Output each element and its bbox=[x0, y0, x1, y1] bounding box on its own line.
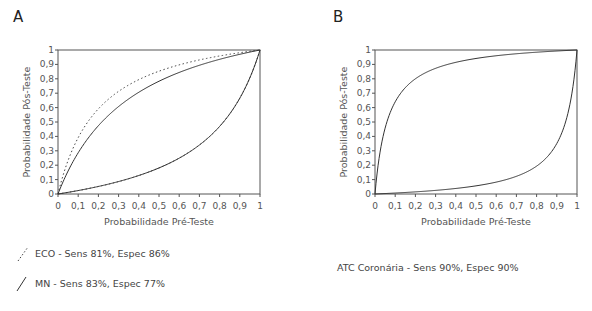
x-tick-label: 0,6 bbox=[489, 201, 504, 211]
y-tick-label: 0 bbox=[365, 189, 371, 199]
plot-frame bbox=[375, 50, 577, 194]
chart-a: 00,10,20,30,40,50,60,70,80,9100,10,20,30… bbox=[21, 45, 263, 227]
dotted-curve bbox=[58, 50, 260, 194]
x-tick-label: 0,4 bbox=[132, 201, 147, 211]
x-tick-label: 0,2 bbox=[408, 201, 422, 211]
solid-line-legend-icon bbox=[17, 277, 26, 291]
solid-curve bbox=[375, 50, 577, 194]
x-tick-label: 0 bbox=[372, 201, 378, 211]
y-tick-label: 0,5 bbox=[40, 117, 54, 127]
x-tick-label: 1 bbox=[574, 201, 580, 211]
y-tick-label: 0,9 bbox=[357, 59, 372, 69]
x-tick-label: 0,7 bbox=[509, 201, 523, 211]
x-tick-label: 0 bbox=[55, 201, 61, 211]
x-tick-label: 0,5 bbox=[152, 201, 166, 211]
y-tick-label: 0,7 bbox=[40, 88, 54, 98]
y-axis-title: Probabilidade Pós-Teste bbox=[21, 66, 32, 177]
y-tick-label: 1 bbox=[48, 45, 54, 55]
y-tick-label: 0,8 bbox=[40, 74, 55, 84]
solid-curve bbox=[58, 50, 260, 194]
legend-atc: ATC Coronária - Sens 90%, Espec 90% bbox=[337, 262, 519, 273]
y-tick-label: 0,2 bbox=[40, 160, 54, 170]
y-tick-label: 1 bbox=[365, 45, 371, 55]
x-tick-label: 0,1 bbox=[71, 201, 85, 211]
y-axis-title: Probabilidade Pós-Teste bbox=[338, 66, 349, 177]
y-tick-label: 0,9 bbox=[40, 59, 55, 69]
y-tick-label: 0,1 bbox=[357, 175, 371, 185]
y-tick-label: 0,6 bbox=[357, 103, 372, 113]
x-tick-label: 0,6 bbox=[172, 201, 187, 211]
x-tick-label: 0,4 bbox=[449, 201, 464, 211]
y-tick-label: 0,3 bbox=[357, 146, 371, 156]
dotted-line-legend-icon bbox=[18, 247, 28, 261]
x-tick-label: 0,3 bbox=[111, 201, 125, 211]
legend-mn: MN - Sens 83%, Espec 77% bbox=[35, 278, 165, 289]
chart-b: 00,10,20,30,40,50,60,70,80,9100,10,20,30… bbox=[338, 45, 580, 227]
plot-frame bbox=[58, 50, 260, 194]
y-tick-label: 0,3 bbox=[40, 146, 54, 156]
dotted-curve bbox=[58, 50, 260, 194]
x-tick-label: 0,8 bbox=[212, 201, 227, 211]
x-tick-label: 0,3 bbox=[428, 201, 442, 211]
y-tick-label: 0,6 bbox=[40, 103, 55, 113]
y-tick-label: 0,5 bbox=[357, 117, 371, 127]
solid-curve bbox=[58, 50, 260, 194]
y-tick-label: 0,2 bbox=[357, 160, 371, 170]
x-tick-label: 0,2 bbox=[91, 201, 105, 211]
y-tick-label: 0 bbox=[48, 189, 54, 199]
y-tick-label: 0,4 bbox=[357, 131, 372, 141]
x-tick-label: 0,1 bbox=[388, 201, 402, 211]
legend-eco: ECO - Sens 81%, Espec 86% bbox=[35, 248, 170, 259]
solid-curve bbox=[375, 50, 577, 194]
x-tick-label: 1 bbox=[257, 201, 263, 211]
y-tick-label: 0,7 bbox=[357, 88, 371, 98]
x-tick-label: 0,7 bbox=[192, 201, 206, 211]
x-tick-label: 0,5 bbox=[469, 201, 483, 211]
y-tick-label: 0,1 bbox=[40, 175, 54, 185]
x-tick-label: 0,9 bbox=[550, 201, 565, 211]
x-tick-label: 0,9 bbox=[233, 201, 248, 211]
y-tick-label: 0,8 bbox=[357, 74, 372, 84]
x-tick-label: 0,8 bbox=[529, 201, 544, 211]
y-tick-label: 0,4 bbox=[40, 131, 55, 141]
x-axis-title: Probabilidade Pré-Teste bbox=[421, 216, 531, 227]
x-axis-title: Probabilidade Pré-Teste bbox=[104, 216, 214, 227]
